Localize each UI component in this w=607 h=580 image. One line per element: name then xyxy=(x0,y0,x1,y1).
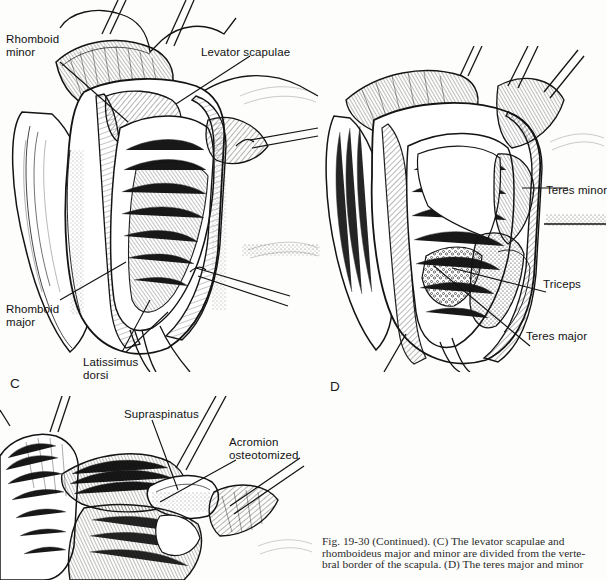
label-teres-major: Teres major xyxy=(526,330,587,343)
label-latissimus-dorsi: Latissimus dorsi xyxy=(83,356,138,381)
caption-line-3-text: bral border of the scapula. (D) The tere… xyxy=(322,559,583,571)
caption-line-1-text: Fig. 19-30 (Continued). (C) The levator … xyxy=(322,536,564,548)
label-teres-minor: Teres minor xyxy=(546,184,607,197)
label-acromion-osteotomized: Acromion osteotomized xyxy=(229,436,299,461)
illustration-panel-d xyxy=(322,46,606,372)
panel-letter-c: C xyxy=(10,376,20,391)
panel-d-artwork xyxy=(322,46,606,372)
label-triceps: Triceps xyxy=(543,278,581,291)
label-rhomboid-major: Rhomboid major xyxy=(6,303,59,328)
label-levator-scapulae: Levator scapulae xyxy=(201,46,290,59)
panel-letter-d: D xyxy=(330,379,340,394)
caption-line-3: bral border of the scapula. (D) The tere… xyxy=(322,559,606,571)
caption-line-1: Fig. 19-30 (Continued). (C) The levator … xyxy=(322,536,606,548)
label-rhomboid-minor: Rhomboid minor xyxy=(6,33,59,58)
label-supraspinatus: Supraspinatus xyxy=(124,408,199,421)
figure-caption: Fig. 19-30 (Continued). (C) The levator … xyxy=(322,536,606,580)
panel-c-artwork xyxy=(0,396,322,580)
illustration-panel-c xyxy=(0,396,322,580)
